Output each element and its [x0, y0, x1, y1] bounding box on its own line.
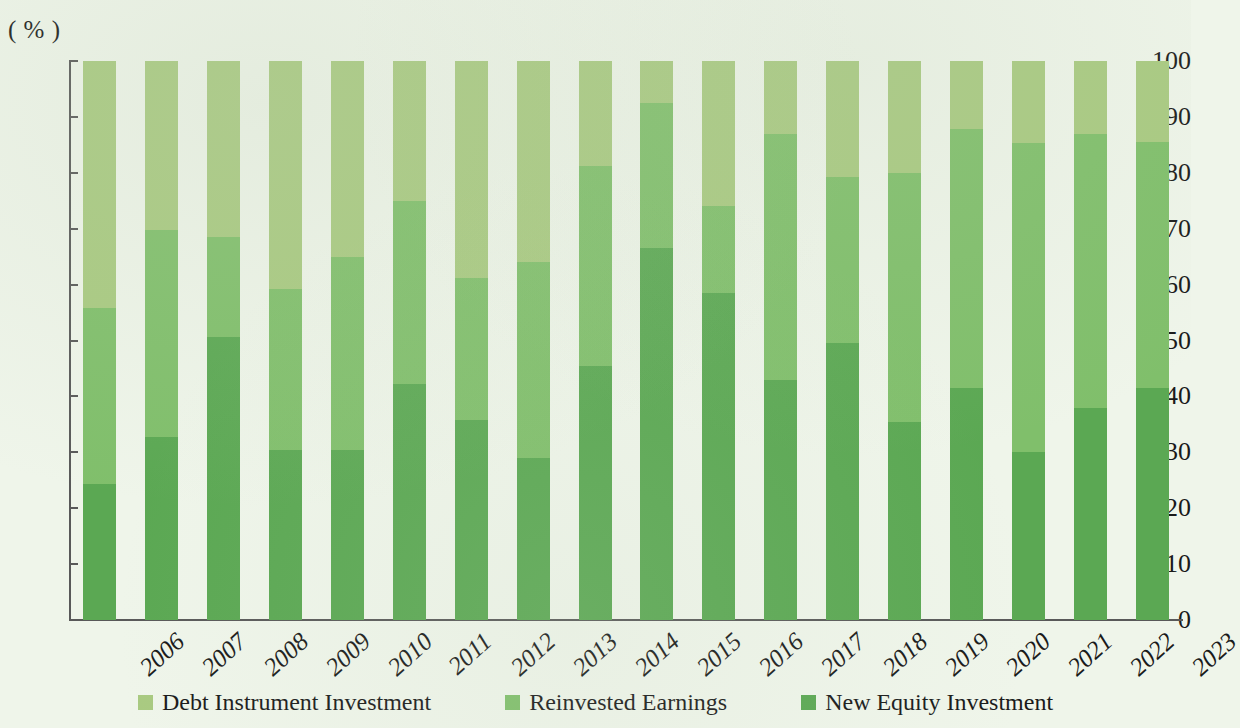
x-axis-tick-label: 2015	[692, 628, 746, 680]
bar-segment-new-equity[interactable]	[83, 484, 116, 620]
bar-segment-reinvested-earnings[interactable]	[145, 230, 178, 436]
bar-segment-new-equity[interactable]	[455, 420, 488, 620]
bar-segment-reinvested-earnings[interactable]	[764, 134, 797, 379]
legend-item[interactable]: Reinvested Earnings	[505, 690, 727, 714]
bar-segment-debt-instrument[interactable]	[145, 61, 178, 230]
bar-segment-new-equity[interactable]	[888, 422, 921, 620]
bar-segment-reinvested-earnings[interactable]	[269, 289, 302, 449]
bar-segment-reinvested-earnings[interactable]	[826, 177, 859, 343]
bar-segment-debt-instrument[interactable]	[207, 61, 240, 237]
bar-segment-debt-instrument[interactable]	[1136, 61, 1169, 142]
bar-segment-reinvested-earnings[interactable]	[579, 166, 612, 367]
bar-segment-new-equity[interactable]	[331, 450, 364, 620]
bar-segment-new-equity[interactable]	[640, 248, 673, 620]
bar-segment-debt-instrument[interactable]	[331, 61, 364, 257]
bar-segment-debt-instrument[interactable]	[702, 61, 735, 206]
bar-segment-new-equity[interactable]	[826, 343, 859, 620]
bar-column[interactable]	[826, 61, 859, 620]
bar-segment-new-equity[interactable]	[393, 384, 426, 620]
bar-segment-debt-instrument[interactable]	[888, 61, 921, 173]
bar-segment-new-equity[interactable]	[764, 380, 797, 620]
bar-column[interactable]	[888, 61, 921, 620]
bar-segment-debt-instrument[interactable]	[1012, 61, 1045, 143]
bar-column[interactable]	[145, 61, 178, 620]
x-axis-tick-label: 2010	[382, 628, 436, 680]
bar-segment-reinvested-earnings[interactable]	[331, 257, 364, 450]
x-axis-tick-label: 2013	[568, 628, 622, 680]
bar-segment-debt-instrument[interactable]	[1074, 61, 1107, 134]
x-axis-tick-label: 2016	[754, 628, 808, 680]
bar-segment-reinvested-earnings[interactable]	[950, 129, 983, 388]
x-axis-tick-label: 2019	[939, 628, 993, 680]
bar-segment-new-equity[interactable]	[517, 458, 550, 620]
bar-segment-debt-instrument[interactable]	[83, 61, 116, 308]
x-axis-tick-label: 2008	[259, 628, 313, 680]
legend-item-label: Reinvested Earnings	[529, 690, 727, 714]
bar-column[interactable]	[517, 61, 550, 620]
bar-segment-reinvested-earnings[interactable]	[455, 278, 488, 420]
legend-item-label: New Equity Investment	[825, 690, 1053, 714]
legend-item-label: Debt Instrument Investment	[162, 690, 431, 714]
bar-segment-reinvested-earnings[interactable]	[1012, 143, 1045, 453]
x-axis-tick-label: 2007	[197, 628, 251, 680]
bar-column[interactable]	[83, 61, 116, 620]
bar-segment-new-equity[interactable]	[269, 450, 302, 620]
bar-segment-debt-instrument[interactable]	[517, 61, 550, 262]
bar-segment-new-equity[interactable]	[207, 337, 240, 620]
bar-segment-reinvested-earnings[interactable]	[207, 237, 240, 337]
bar-column[interactable]	[269, 61, 302, 620]
bar-column[interactable]	[393, 61, 426, 620]
bar-column[interactable]	[1012, 61, 1045, 620]
bar-column[interactable]	[1074, 61, 1107, 620]
bar-column[interactable]	[640, 61, 673, 620]
chart-legend: Debt Instrument InvestmentReinvested Ear…	[0, 690, 1191, 714]
bar-segment-reinvested-earnings[interactable]	[1074, 134, 1107, 408]
bar-column[interactable]	[702, 61, 735, 620]
bar-segment-new-equity[interactable]	[1074, 408, 1107, 620]
bar-segment-debt-instrument[interactable]	[393, 61, 426, 201]
x-axis-tick-label: 2022	[1125, 628, 1179, 680]
x-axis-tick-label: 2011	[444, 628, 497, 679]
bar-segment-debt-instrument[interactable]	[764, 61, 797, 134]
bar-segment-new-equity[interactable]	[145, 437, 178, 620]
plot-area	[69, 61, 1183, 620]
bar-segment-debt-instrument[interactable]	[826, 61, 859, 177]
bar-segment-new-equity[interactable]	[1012, 452, 1045, 620]
legend-item[interactable]: Debt Instrument Investment	[138, 690, 431, 714]
bar-column[interactable]	[455, 61, 488, 620]
bar-segment-new-equity[interactable]	[1136, 388, 1169, 620]
bar-segment-reinvested-earnings[interactable]	[393, 201, 426, 384]
bar-column[interactable]	[331, 61, 364, 620]
bar-segment-reinvested-earnings[interactable]	[83, 308, 116, 484]
x-axis-tick-label: 2017	[816, 628, 870, 680]
bar-segment-new-equity[interactable]	[702, 293, 735, 620]
square-swatch-icon	[801, 695, 816, 710]
x-axis-tick-label: 2012	[506, 628, 560, 680]
bar-segment-debt-instrument[interactable]	[269, 61, 302, 289]
x-axis-tick-label: 2020	[1001, 628, 1055, 680]
bar-column[interactable]	[764, 61, 797, 620]
bar-segment-reinvested-earnings[interactable]	[640, 103, 673, 248]
x-axis-tick-label: 2006	[135, 628, 189, 680]
bar-segment-debt-instrument[interactable]	[950, 61, 983, 129]
bar-segment-new-equity[interactable]	[950, 388, 983, 620]
bar-segment-reinvested-earnings[interactable]	[517, 262, 550, 459]
bar-segment-debt-instrument[interactable]	[455, 61, 488, 278]
y-axis-unit-label: ( % )	[8, 16, 60, 44]
bar-segment-reinvested-earnings[interactable]	[702, 206, 735, 293]
square-swatch-icon	[505, 695, 520, 710]
bar-segment-debt-instrument[interactable]	[579, 61, 612, 166]
bar-segment-debt-instrument[interactable]	[640, 61, 673, 103]
bar-segment-reinvested-earnings[interactable]	[888, 173, 921, 422]
x-axis-tick-label: 2014	[630, 628, 684, 680]
bar-segment-reinvested-earnings[interactable]	[1136, 142, 1169, 388]
legend-item[interactable]: New Equity Investment	[801, 690, 1053, 714]
bar-column[interactable]	[579, 61, 612, 620]
bar-column[interactable]	[207, 61, 240, 620]
x-axis-tick-label: 2009	[320, 628, 374, 680]
bar-segment-new-equity[interactable]	[579, 366, 612, 620]
x-axis-tick-label: 2023	[1187, 628, 1240, 680]
bar-column[interactable]	[950, 61, 983, 620]
bar-column[interactable]	[1136, 61, 1169, 620]
